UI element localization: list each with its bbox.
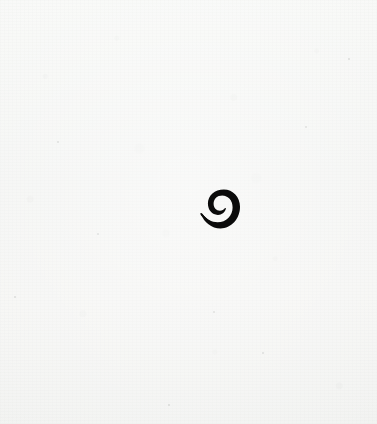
glyph-layer [0, 0, 377, 424]
scanned-page [0, 0, 377, 424]
spiral-comma-glyph [199, 187, 243, 232]
